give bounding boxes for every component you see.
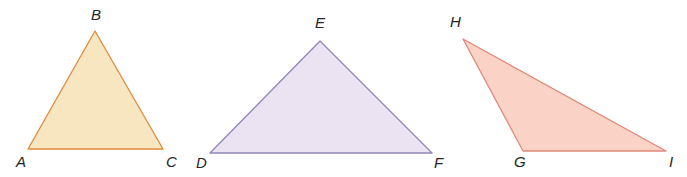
vertex-label-h: H	[450, 14, 461, 29]
geometry-figure: A B C D E F H G I	[0, 0, 687, 177]
vertex-label-b: B	[91, 7, 101, 22]
vertex-label-i: I	[669, 154, 673, 169]
vertex-label-d: D	[196, 155, 207, 170]
triangles-canvas	[0, 0, 687, 177]
vertex-label-c: C	[166, 154, 177, 169]
triangle-ghi-shape	[463, 39, 666, 151]
vertex-label-e: E	[315, 15, 325, 30]
triangle-abc-shape	[28, 31, 163, 149]
vertex-label-g: G	[514, 154, 526, 169]
vertex-label-f: F	[434, 155, 443, 170]
vertex-label-a: A	[16, 154, 26, 169]
triangle-def-shape	[210, 41, 432, 153]
